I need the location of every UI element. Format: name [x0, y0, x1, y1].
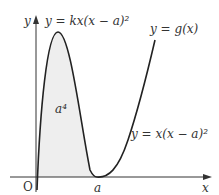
origin-label: O — [23, 180, 33, 194]
lower-curve-label: y = x(x − a)² — [130, 127, 208, 141]
a-marker-label: a — [94, 181, 101, 195]
diagram-canvas: y x O a y = kx(x − a)² y = g(x) y = x(x … — [0, 0, 219, 195]
y-axis-label: y — [23, 14, 31, 28]
x-axis-label: x — [202, 181, 209, 195]
upper-curve-label: y = kx(x − a)² — [44, 14, 129, 28]
y-axis-arrow-icon — [33, 15, 39, 24]
function-diagram: y x O a y = kx(x − a)² y = g(x) y = x(x … — [0, 0, 219, 195]
x-axis-arrow-icon — [203, 174, 212, 180]
shaded-area-label: a⁴ — [55, 102, 67, 116]
g-curve-label: y = g(x) — [149, 22, 199, 36]
g-curve — [97, 40, 155, 177]
